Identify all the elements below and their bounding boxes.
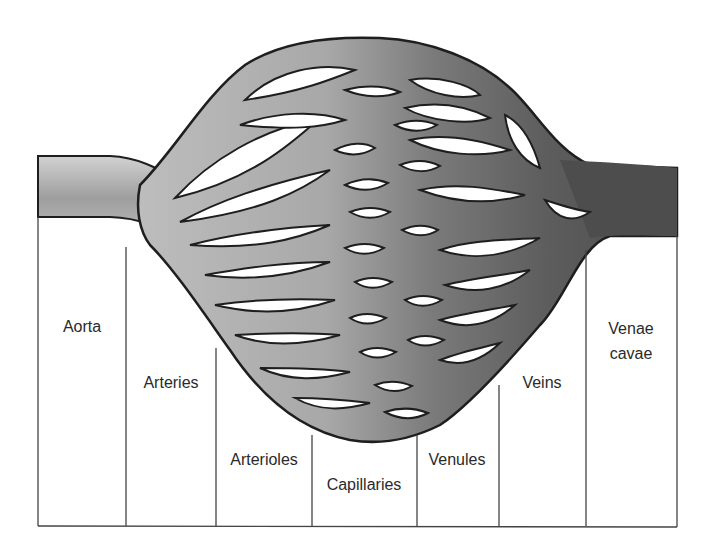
label-venae-cavae-line1: Venae [608,316,653,341]
label-arterioles: Arterioles [230,447,298,472]
label-aorta: Aorta [63,314,101,339]
label-venules: Venules [429,447,486,472]
baseline [38,526,677,527]
label-capillaries: Capillaries [327,472,402,497]
label-arteries: Arteries [143,370,198,395]
vascular-diagram: Aorta Arteries Arterioles Capillaries Ve… [0,0,712,554]
label-veins: Veins [522,370,561,395]
label-venae-cavae-line2: cavae [610,341,653,366]
